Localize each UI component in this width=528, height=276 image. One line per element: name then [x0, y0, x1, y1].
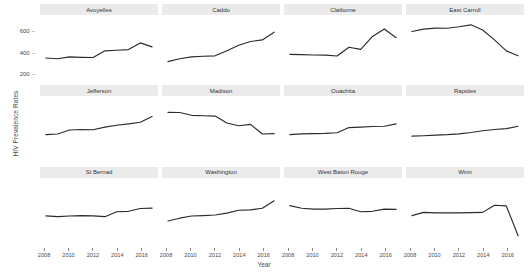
facet-panel: Rapides [404, 85, 526, 166]
y-tick-label: 600– [20, 28, 35, 34]
x-tick-label: 2014 [111, 252, 123, 258]
facet-strip-label: Jefferson [40, 85, 158, 96]
facet-title: Jefferson [87, 88, 112, 94]
facet-strip-label: Madison [162, 85, 280, 96]
plot-area [40, 15, 158, 85]
x-tick-mark [361, 248, 362, 251]
facet-strip-label: Claiborne [284, 4, 402, 15]
facet-panel: Washington [160, 167, 282, 248]
facet-strip-label: East Carroll [406, 4, 524, 15]
series-line [46, 117, 152, 135]
facet-panel: East Carroll [404, 4, 526, 85]
x-tick-label: 2014 [477, 252, 489, 258]
plot-area [406, 15, 524, 85]
x-tick-mark [141, 248, 142, 251]
series-line [412, 25, 518, 56]
facet-title: West Baton Rouge [318, 169, 368, 175]
x-tick-mark [263, 248, 264, 251]
x-tick-label: 2012 [209, 252, 221, 258]
facet-panel: West Baton Rouge [282, 167, 404, 248]
plot-area [162, 96, 280, 166]
facet-strip-label: Avoyelles [40, 4, 158, 15]
x-tick-label: 2012 [331, 252, 343, 258]
x-axis-label: Year [0, 261, 528, 268]
plot-area [162, 15, 280, 85]
facet-title: Rapides [454, 88, 476, 94]
plot-area [284, 15, 402, 85]
plot-area [40, 178, 158, 248]
x-tick-mark [312, 248, 313, 251]
x-tick-label: 2016 [501, 252, 513, 258]
x-tick-label: 2010 [428, 252, 440, 258]
x-tick-mark [68, 248, 69, 251]
x-tick-column: 20082010201220142016 [404, 248, 526, 261]
y-tick-label: 200– [20, 71, 35, 77]
facet-panel: Ouachita [282, 85, 404, 166]
y-axis-ticks: 600–400–200– [0, 4, 38, 248]
x-tick-mark [166, 248, 167, 251]
x-axis-ticks: 2008201020122014201620082010201220142016… [38, 248, 526, 261]
series-line [290, 124, 396, 135]
facet-title: Ouachita [331, 88, 355, 94]
x-tick-mark [117, 248, 118, 251]
x-tick-mark [434, 248, 435, 251]
series-line [290, 205, 396, 211]
plot-area [406, 96, 524, 166]
x-tick-label: 2008 [404, 252, 416, 258]
facet-panel: Caddo [160, 4, 282, 85]
x-tick-label: 2012 [87, 252, 99, 258]
series-line [46, 208, 152, 217]
series-line [168, 32, 274, 61]
x-tick-label: 2016 [135, 252, 147, 258]
x-tick-mark [336, 248, 337, 251]
plot-area [162, 178, 280, 248]
x-tick-label: 2010 [62, 252, 74, 258]
facet-strip-label: Winn [406, 167, 524, 178]
facet-title: Avoyelles [86, 7, 112, 13]
facet-panel: St Bernad [38, 167, 160, 248]
x-tick-mark [458, 248, 459, 251]
x-tick-mark [239, 248, 240, 251]
facet-strip-label: Ouachita [284, 85, 402, 96]
facet-title: Washington [205, 169, 236, 175]
facet-title: St Bernad [86, 169, 113, 175]
facet-strip-label: Washington [162, 167, 280, 178]
facet-strip-label: St Bernad [40, 167, 158, 178]
facet-panel: Jefferson [38, 85, 160, 166]
facet-grid: AvoyellesCaddoClaiborneEast CarrollJeffe… [38, 4, 526, 248]
x-tick-label: 2012 [453, 252, 465, 258]
faceted-line-chart: HIV Prevalence Rates Year 600–400–200– A… [0, 0, 528, 276]
facet-strip-label: Caddo [162, 4, 280, 15]
x-tick-label: 2008 [160, 252, 172, 258]
x-tick-column: 20082010201220142016 [160, 248, 282, 261]
x-tick-label: 2010 [184, 252, 196, 258]
facet-panel: Claiborne [282, 4, 404, 85]
x-tick-label: 2016 [379, 252, 391, 258]
x-tick-mark [190, 248, 191, 251]
facet-title: Caddo [212, 7, 230, 13]
facet-panel: Avoyelles [38, 4, 160, 85]
x-tick-mark [214, 248, 215, 251]
x-tick-label: 2014 [355, 252, 367, 258]
facet-title: Madison [210, 88, 233, 94]
x-tick-label: 2010 [306, 252, 318, 258]
x-tick-mark [288, 248, 289, 251]
series-line [168, 200, 274, 220]
x-tick-column: 20082010201220142016 [282, 248, 404, 261]
facet-panel: Madison [160, 85, 282, 166]
y-tick-label: 400– [20, 50, 35, 56]
series-line [168, 113, 274, 135]
x-tick-label: 2016 [257, 252, 269, 258]
x-tick-mark [44, 248, 45, 251]
facet-strip-label: West Baton Rouge [284, 167, 402, 178]
plot-area [406, 178, 524, 248]
x-tick-mark [483, 248, 484, 251]
plot-area [284, 178, 402, 248]
plot-area [40, 96, 158, 166]
x-tick-label: 2008 [282, 252, 294, 258]
x-tick-mark [92, 248, 93, 251]
series-line [412, 127, 518, 137]
series-line [412, 205, 518, 235]
plot-area [284, 96, 402, 166]
x-tick-column: 20082010201220142016 [38, 248, 160, 261]
